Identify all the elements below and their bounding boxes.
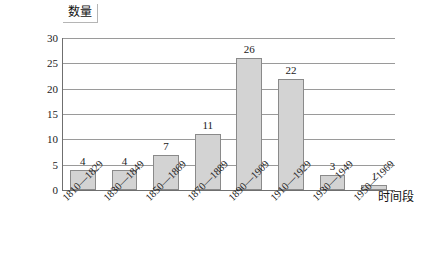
bar-value-label: 7 <box>146 141 186 152</box>
y-axis-tick-label: 30 <box>6 33 58 44</box>
x-axis-title: 时间段 <box>378 191 414 203</box>
y-axis-tick-label: 0 <box>6 185 58 196</box>
y-axis-tick-label: 20 <box>6 83 58 94</box>
y-axis-line <box>62 38 63 190</box>
y-axis-title: 数量 <box>63 4 98 23</box>
y-axis-tick-labels: 051015202530 <box>0 0 58 256</box>
gridline <box>62 38 395 39</box>
bar-value-label: 26 <box>229 44 269 55</box>
bar-value-label: 11 <box>188 120 228 131</box>
gridline <box>62 114 395 115</box>
gridline <box>62 89 395 90</box>
y-axis-tick-label: 10 <box>6 134 58 145</box>
y-axis-tick-label: 25 <box>6 58 58 69</box>
bar-chart: 051015202530 数量 时间段 41810—182941830—1849… <box>0 0 425 256</box>
gridline <box>62 63 395 64</box>
y-axis-tick-label: 15 <box>6 109 58 120</box>
bar-value-label: 22 <box>271 65 311 76</box>
gridline <box>62 139 395 140</box>
y-axis-tick-label: 5 <box>6 159 58 170</box>
